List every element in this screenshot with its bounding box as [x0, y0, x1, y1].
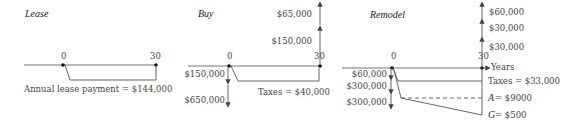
buy-point-0: [227, 64, 231, 68]
remodel-down-label-1: $60,000: [352, 69, 387, 79]
buy-taxes-series: [231, 66, 319, 81]
remodel-t0-label: 0: [391, 51, 396, 61]
remodel-taxes-series: [393, 68, 482, 81]
buy-point-30: [318, 64, 322, 68]
remodel-down-label-2: $300,000: [346, 81, 387, 91]
lease-payment-label: Annual lease payment = $144,000: [23, 84, 172, 94]
lease-payment-series: [65, 65, 156, 80]
remodel-up-label-1: $60,000: [489, 7, 524, 17]
remodel-diagram: Remodel 0 30 Years $60,000 $30,000 $30,0…: [342, 4, 560, 120]
remodel-g-series: [401, 68, 482, 115]
buy-down-label-2: $650,000: [184, 95, 225, 105]
buy-diagram: Buy 0 30 $65,000 $150,000 $150,000 $650,…: [184, 4, 330, 105]
buy-up-label-2: $150,000: [271, 36, 312, 46]
remodel-g-value: = $500: [495, 110, 526, 120]
lease-t30-label: 30: [150, 51, 161, 61]
remodel-down-label-3: $300,000: [346, 97, 387, 107]
buy-down-label-1: $150,000: [184, 69, 225, 79]
remodel-a-lead: [394, 70, 401, 98]
remodel-a-label: A: [487, 92, 495, 103]
lease-t0-label: 0: [61, 51, 66, 61]
buy-t0-label: 0: [227, 51, 232, 61]
buy-t30-label: 30: [314, 51, 325, 61]
remodel-up-label-3: $30,000: [489, 42, 524, 52]
buy-title: Buy: [198, 8, 214, 19]
lease-diagram: Lease 0 30 Annual lease payment = $144,0…: [23, 8, 172, 94]
remodel-up-label-2: $30,000: [489, 23, 524, 33]
remodel-t30-label: 30: [478, 51, 489, 61]
lease-title: Lease: [24, 8, 49, 19]
buy-up-label-1: $65,000: [277, 9, 312, 19]
remodel-title: Remodel: [369, 9, 405, 20]
remodel-taxes-label: Taxes = $33,000: [488, 76, 560, 86]
buy-taxes-label: Taxes = $40,000: [258, 87, 330, 97]
lease-point-0: [61, 63, 65, 67]
remodel-a-value: = $9000: [495, 93, 532, 103]
remodel-axis-label: Years: [490, 62, 514, 72]
